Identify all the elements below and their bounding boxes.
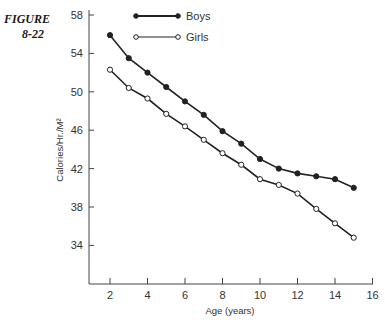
- data-point-marker: [126, 56, 131, 61]
- y-tick-label: 46: [71, 124, 83, 136]
- data-point-marker: [332, 221, 337, 226]
- data-point-marker: [220, 151, 225, 156]
- x-tick-label: 10: [254, 289, 266, 301]
- chart-series: [107, 33, 356, 241]
- data-point-marker: [107, 33, 112, 38]
- data-point-marker: [239, 162, 244, 167]
- data-point-marker: [257, 177, 262, 182]
- x-tick-label: 2: [107, 289, 113, 301]
- data-point-marker: [295, 171, 300, 176]
- data-point-marker: [201, 137, 206, 142]
- data-point-marker: [295, 191, 300, 196]
- data-point-marker: [182, 124, 187, 129]
- data-point-marker: [351, 235, 356, 240]
- data-point-marker: [145, 70, 150, 75]
- data-point-marker: [164, 111, 169, 116]
- data-point-marker: [220, 129, 225, 134]
- x-tick-label: 12: [291, 289, 303, 301]
- x-tick-label: 14: [329, 289, 341, 301]
- data-point-marker: [164, 84, 169, 89]
- y-tick-label: 38: [71, 201, 83, 213]
- legend-item-boys: Boys: [134, 10, 211, 22]
- data-point-marker: [145, 96, 150, 101]
- data-point-marker: [201, 112, 206, 117]
- x-axis-title: Age (years): [205, 305, 254, 316]
- legend-marker-icon: [176, 35, 181, 40]
- legend-label: Boys: [186, 10, 211, 22]
- x-tick-label: 16: [366, 289, 378, 301]
- series-girls: [107, 67, 356, 240]
- x-tick-label: 8: [219, 289, 225, 301]
- data-point-marker: [276, 166, 281, 171]
- y-tick-label: 34: [71, 239, 83, 251]
- data-point-marker: [276, 182, 281, 187]
- x-tick-label: 4: [144, 289, 150, 301]
- data-point-marker: [257, 156, 262, 161]
- legend-marker-icon: [134, 14, 139, 19]
- data-point-marker: [314, 174, 319, 179]
- x-tick-label: 6: [182, 289, 188, 301]
- data-point-marker: [182, 99, 187, 104]
- series-line: [110, 35, 354, 188]
- y-tick-label: 50: [71, 86, 83, 98]
- line-chart: 34384246505458246810121416 BoysGirls Age…: [0, 0, 385, 322]
- series-boys: [107, 33, 356, 191]
- y-tick-label: 54: [71, 47, 83, 59]
- legend-marker-icon: [134, 35, 139, 40]
- chart-legend: BoysGirls: [134, 10, 211, 43]
- data-point-marker: [332, 177, 337, 182]
- data-point-marker: [314, 206, 319, 211]
- data-point-marker: [239, 141, 244, 146]
- data-point-marker: [107, 67, 112, 72]
- data-point-marker: [351, 185, 356, 190]
- y-tick-label: 58: [71, 9, 83, 21]
- series-line: [110, 70, 354, 238]
- data-point-marker: [126, 85, 131, 90]
- legend-marker-icon: [176, 14, 181, 19]
- legend-item-girls: Girls: [134, 31, 209, 43]
- y-tick-label: 42: [71, 163, 83, 175]
- legend-label: Girls: [186, 31, 209, 43]
- y-axis-title: Calories/Hr./M²: [54, 118, 65, 181]
